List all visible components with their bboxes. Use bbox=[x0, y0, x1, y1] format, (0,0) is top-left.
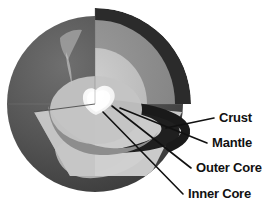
earth-cutaway-figure: Crust Mantle Outer Core Inner Core bbox=[0, 0, 267, 209]
labels-group: Crust Mantle Outer Core Inner Core bbox=[188, 110, 262, 201]
label-outer-core: Outer Core bbox=[196, 160, 262, 175]
label-mantle: Mantle bbox=[212, 135, 252, 150]
label-crust: Crust bbox=[219, 110, 253, 125]
label-inner-core: Inner Core bbox=[188, 186, 251, 201]
globe-group bbox=[7, 8, 191, 192]
